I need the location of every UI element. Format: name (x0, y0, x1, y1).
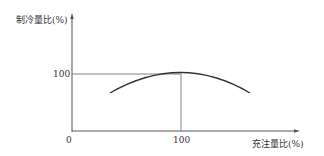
y-axis-label: 制冷量比(%) (16, 13, 68, 26)
x-axis-arrow-icon (294, 129, 300, 133)
origin-label: 0 (66, 135, 72, 145)
cooling-capacity-curve (110, 73, 250, 94)
y-axis-arrow-icon (70, 13, 74, 19)
x-tick-100: 100 (173, 135, 190, 145)
y-tick-100: 100 (53, 69, 70, 79)
x-axis-label: 充注量比(%) (252, 137, 304, 150)
